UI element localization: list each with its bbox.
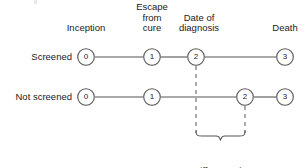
header-death: Death	[272, 23, 297, 34]
node-screened-0: 0	[84, 53, 88, 61]
node-screened-3: 3	[283, 53, 287, 61]
row-label-not-screened: Not screened	[15, 91, 72, 102]
node-screened-1: 1	[150, 53, 154, 61]
node-not-screened-3: 3	[283, 93, 287, 101]
node-not-screened-2: 2	[243, 93, 247, 101]
screened-timeline	[78, 49, 294, 66]
caption-line-1: Difference in	[175, 165, 265, 168]
node-screened-2: 2	[194, 53, 198, 61]
header-inception: Inception	[67, 23, 106, 34]
lead-time-brace	[196, 131, 245, 140]
header-diagnosis-line2: diagnosis	[179, 23, 219, 34]
node-not-screened-1: 1	[150, 93, 154, 101]
node-not-screened-0: 0	[84, 93, 88, 101]
lead-time-bias-diagram: Inception Escape from cure Date of diagn…	[0, 0, 307, 168]
header-escape-line3: cure	[143, 23, 161, 34]
not-screened-timeline	[78, 89, 294, 106]
lead-time-caption: Difference in dates is lead time	[175, 142, 265, 168]
row-label-screened: Screened	[31, 51, 72, 62]
